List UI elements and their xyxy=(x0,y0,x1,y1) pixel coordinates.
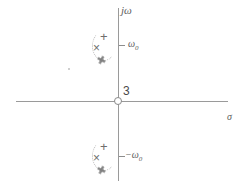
imaginary-axis-label: jω xyxy=(121,5,132,16)
stray-speck xyxy=(68,68,70,70)
tick-label-omega0-positive-main: ω xyxy=(128,38,135,49)
pole-zero-plot: jω σ ω0 −ω0 3 + × ✖ + × ✖ xyxy=(0,0,249,187)
zero-multiplicity-label: 3 xyxy=(123,85,130,97)
tick-label-omega0-negative: −ω0 xyxy=(125,150,142,163)
tick-label-omega0-negative-main: −ω xyxy=(125,149,139,160)
real-axis-label: σ xyxy=(227,112,232,122)
tick-omega0-positive xyxy=(119,45,125,46)
tick-label-omega0-negative-sub: 0 xyxy=(139,155,143,163)
tick-label-omega0-positive: ω0 xyxy=(128,39,139,52)
tick-label-omega0-positive-sub: 0 xyxy=(135,44,139,52)
lower-pole-cross-marker: × xyxy=(93,152,100,164)
upper-pole-plus-marker: + xyxy=(100,30,108,43)
real-axis-sigma xyxy=(16,101,228,102)
upper-pole-cross-marker: × xyxy=(93,42,100,54)
lower-pole-plus-marker: + xyxy=(100,140,108,153)
zero-marker-origin xyxy=(114,97,122,105)
